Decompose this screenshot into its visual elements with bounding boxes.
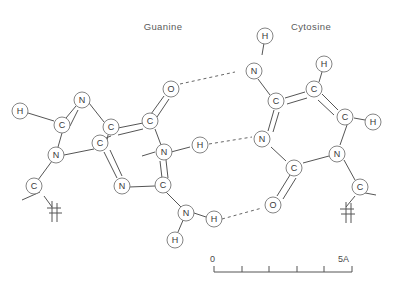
svg-text:C: C <box>59 120 66 130</box>
atom-h: H <box>206 211 222 227</box>
atom-h: H <box>12 103 28 119</box>
svg-text:C: C <box>97 138 104 148</box>
atom-o: O <box>265 197 281 213</box>
svg-text:H: H <box>172 235 179 245</box>
svg-text:C: C <box>291 163 298 173</box>
atom-c: C <box>54 117 70 133</box>
atom-h: H <box>257 28 273 44</box>
scale-bar: 0 5A <box>210 254 352 272</box>
atom-c: C <box>92 135 108 151</box>
atom-c: C <box>306 81 322 97</box>
svg-text:O: O <box>167 84 174 94</box>
svg-text:C: C <box>108 122 115 132</box>
svg-text:H: H <box>17 106 24 116</box>
scale-left-label: 0 <box>210 254 215 264</box>
atom-h: H <box>167 232 183 248</box>
svg-text:N: N <box>183 208 190 218</box>
atom-c: C <box>142 113 158 129</box>
svg-text:N: N <box>161 147 168 157</box>
svg-text:H: H <box>211 214 218 224</box>
atom-n: N <box>329 146 345 162</box>
svg-text:O: O <box>269 200 276 210</box>
svg-text:N: N <box>251 66 258 76</box>
atom-n: N <box>74 92 90 108</box>
svg-text:C: C <box>147 116 154 126</box>
atom-n: N <box>246 63 262 79</box>
atom-c: C <box>352 179 368 195</box>
svg-text:C: C <box>357 182 364 192</box>
atom-c: C <box>286 160 302 176</box>
atom-n: N <box>178 205 194 221</box>
atom-c: C <box>155 177 171 193</box>
atom-n: N <box>48 147 64 163</box>
svg-text:C: C <box>273 96 280 106</box>
atom-c: C <box>268 93 284 109</box>
svg-text:N: N <box>119 181 126 191</box>
svg-text:H: H <box>197 140 204 150</box>
base-pair-diagram: Guanine Cytosine <box>0 0 394 292</box>
svg-text:N: N <box>53 150 60 160</box>
svg-text:H: H <box>321 59 328 69</box>
cytosine-bonds <box>258 43 376 223</box>
cytosine-atoms: H N C C H C H N <box>246 28 381 213</box>
svg-text:N: N <box>79 95 86 105</box>
atom-h: H <box>192 137 208 153</box>
atom-h: H <box>365 114 381 130</box>
atom-c: C <box>26 178 42 194</box>
svg-text:H: H <box>370 117 377 127</box>
svg-text:C: C <box>31 181 38 191</box>
svg-text:H: H <box>262 31 269 41</box>
atom-h: H <box>316 56 332 72</box>
scale-right-label: 5A <box>338 254 349 264</box>
atom-n: N <box>114 178 130 194</box>
atom-n: N <box>254 131 270 147</box>
svg-text:N: N <box>334 149 341 159</box>
cytosine-title: Cytosine <box>291 21 331 32</box>
atom-n: N <box>156 144 172 160</box>
atom-o: O <box>163 81 179 97</box>
guanine-title: Guanine <box>144 21 183 32</box>
svg-text:C: C <box>311 84 318 94</box>
svg-text:C: C <box>342 112 349 122</box>
atom-c: C <box>337 109 353 125</box>
svg-text:N: N <box>259 134 266 144</box>
atom-c: C <box>103 119 119 135</box>
svg-text:C: C <box>160 180 167 190</box>
